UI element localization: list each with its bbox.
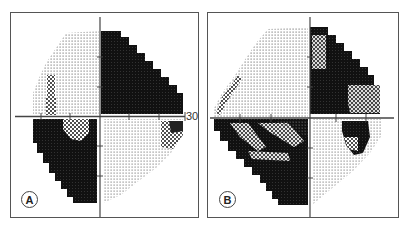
ne-quadrant-defect xyxy=(101,31,183,114)
nw-quadrant-dots xyxy=(33,31,99,115)
panel-label-a: A xyxy=(21,191,38,208)
panel-label-b-text: B xyxy=(224,194,232,206)
visual-field-panel-b: B xyxy=(207,12,399,218)
visual-field-plot-b xyxy=(208,13,399,218)
axis-scale-label: 30 xyxy=(186,111,198,122)
visual-field-panel-a: 30 A xyxy=(10,12,199,218)
visual-field-plot-a xyxy=(11,13,199,218)
panel-label-b: B xyxy=(219,191,236,208)
panel-label-a-text: A xyxy=(26,194,34,206)
nw-quadrant-dots xyxy=(214,27,308,117)
